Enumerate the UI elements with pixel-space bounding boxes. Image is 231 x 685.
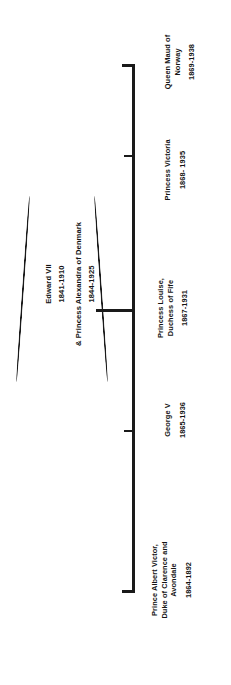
parent-1-years: 1841-1910: [57, 196, 67, 372]
child-name-albert: Prince Albert Victor,: [150, 505, 160, 655]
branch-connector-victoria: [124, 155, 135, 157]
child-node-albert-victor: Prince Albert Victor, Duke of Clarence a…: [150, 505, 193, 655]
child-years-victoria: 1868- 1935: [178, 110, 188, 230]
parent-couple-label: Edward VII 1841-1910 & Princess Alexandr…: [44, 196, 97, 372]
child-name-albert-line3: Avondale: [169, 505, 179, 655]
child-name-louise: Princess Louise,: [156, 248, 166, 368]
child-name-albert-line2: Duke of Clarence and: [160, 505, 170, 655]
child-name-maud: Queen Maud of: [163, 2, 173, 122]
tree-spine-cap-bottom: [122, 590, 134, 593]
child-node-george: George V 1865-1936: [163, 360, 187, 480]
child-name-louise-line2: Duchess of Fife: [166, 248, 176, 368]
child-years-louise: 1867-1931: [180, 248, 190, 368]
tree-spine-vertical: [132, 64, 135, 593]
child-years-albert: 1864-1892: [184, 505, 194, 655]
parent-2-years: 1844-1925: [87, 196, 97, 372]
child-node-louise: Princess Louise, Duchess of Fife 1867-19…: [156, 248, 190, 368]
tree-spine-cap-top: [122, 64, 134, 67]
child-years-maud: 1869-1938: [187, 2, 197, 122]
open-paren-stroke: [15, 196, 30, 382]
child-name-maud-line2: Norway: [173, 2, 183, 122]
parent-1-name: Edward VII: [44, 196, 54, 372]
child-name-george: George V: [163, 360, 173, 480]
child-node-victoria: Princess Victoria 1868- 1935: [163, 110, 187, 230]
child-name-victoria: Princess Victoria: [163, 110, 173, 230]
parent-2-name: & Princess Alexandra of Denmark: [74, 196, 84, 372]
child-years-george: 1865-1936: [178, 360, 188, 480]
child-node-maud: Queen Maud of Norway 1869-1938: [163, 2, 197, 122]
branch-connector-george: [124, 430, 135, 432]
family-tree-diagram: Edward VII 1841-1910 & Princess Alexandr…: [0, 0, 231, 685]
